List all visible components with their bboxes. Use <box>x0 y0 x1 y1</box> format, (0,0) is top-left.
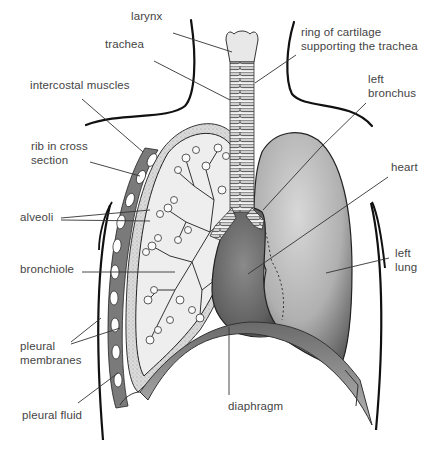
label-diaphragm: diaphragm <box>228 400 283 414</box>
leader-line-rib-in-cross-section <box>90 162 140 176</box>
label-bronchiole: bronchiole <box>20 263 74 277</box>
respiratory-system-diagram <box>0 0 430 457</box>
label-heart: heart <box>391 161 418 175</box>
label-ring-of-cartilage: ring of cartilage supporting the trachea <box>301 26 418 53</box>
leader-line-larynx <box>173 33 232 52</box>
label-pleural-fluid: pleural fluid <box>22 409 82 423</box>
leader-line-intercostal-muscles <box>82 99 143 152</box>
label-larynx: larynx <box>131 10 162 24</box>
label-trachea: trachea <box>105 38 144 52</box>
leader-line-ring-of-cartilage <box>255 55 296 83</box>
label-left-bronchus: left bronchus <box>368 73 416 100</box>
label-alveoli: alveoli <box>20 211 53 225</box>
label-rib-in-cross-section: rib in cross section <box>31 140 88 167</box>
label-intercostal-muscles: intercostal muscles <box>30 79 130 93</box>
label-left-lung: left lung <box>395 247 417 274</box>
label-pleural-membranes: pleural membranes <box>20 340 82 367</box>
leader-line-pleural-membranes <box>71 318 101 342</box>
